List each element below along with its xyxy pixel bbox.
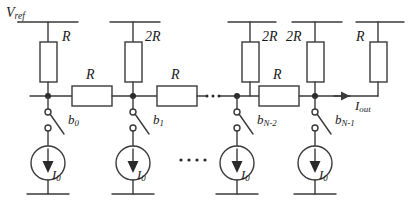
current-source-is3 — [294, 146, 336, 194]
switch-sw3[interactable] — [312, 96, 331, 146]
switch-sw0[interactable] — [45, 96, 64, 146]
vertical-resistor-rv4 — [370, 22, 387, 96]
vertical-resistor-rv3 — [307, 22, 324, 96]
resistor-label-rs0: R — [86, 68, 95, 82]
resistor-label-rs2: R — [273, 68, 282, 82]
series-resistor-rs2 — [259, 86, 299, 106]
resistor-label-rv0: R — [62, 30, 71, 44]
current-source-label-is2: I0 — [241, 168, 250, 183]
switch-label-sw2: bN-2 — [257, 113, 277, 128]
vertical-resistor-rv1 — [125, 22, 142, 96]
ladder-rail — [30, 86, 378, 106]
circuit-figure: Vref R 2R 2R 2R R R R R b0 b1 bN-2 bN-1 … — [0, 0, 412, 209]
resistor-label-rv3: 2R — [286, 30, 302, 44]
switch-sw2[interactable] — [234, 96, 253, 146]
vertical-resistor-rv2 — [242, 22, 259, 96]
series-resistor-rs1 — [157, 86, 197, 106]
current-source-is2 — [216, 146, 258, 194]
current-source-label-is0: I0 — [52, 168, 61, 183]
iout-label: Iout — [355, 99, 371, 114]
ellipsis-rail — [206, 95, 221, 98]
ellipsis-sources — [179, 158, 206, 161]
current-source-is1 — [112, 146, 154, 194]
switch-label-sw3: bN-1 — [335, 113, 355, 128]
resistor-label-rv4: R — [356, 30, 365, 44]
resistor-label-rv1: 2R — [145, 30, 161, 44]
switch-label-sw0: b0 — [68, 113, 79, 128]
current-source-label-is1: I0 — [137, 168, 146, 183]
iout-arrow — [334, 92, 350, 101]
current-source-label-is3: I0 — [319, 168, 328, 183]
resistor-label-rs1: R — [171, 68, 180, 82]
vref-label: Vref — [6, 6, 25, 22]
series-resistor-rs0 — [72, 86, 112, 106]
vertical-resistor-rv0 — [40, 22, 57, 96]
current-source-is0 — [27, 146, 69, 194]
switch-sw1[interactable] — [130, 96, 149, 146]
switch-label-sw1: b1 — [153, 113, 164, 128]
resistor-label-rv2: 2R — [262, 30, 278, 44]
